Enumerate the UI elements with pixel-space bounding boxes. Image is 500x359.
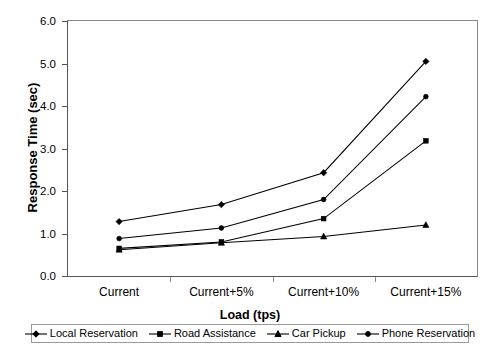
series-phone-reservation	[117, 94, 429, 241]
y-axis-tick-label: 6.0	[22, 16, 56, 26]
data-point-marker	[423, 222, 429, 228]
y-axis-tick-label: 1.0	[22, 229, 56, 239]
legend-item-road-assistance: Road Assistance	[149, 328, 256, 340]
legend-item-local-reservation: Local Reservation	[25, 328, 138, 340]
y-axis-tick-label: 3.0	[22, 144, 56, 154]
y-axis-tick-label: 2.0	[22, 186, 56, 196]
legend-item-car-pickup: Car Pickup	[267, 328, 346, 340]
series-line	[119, 141, 426, 249]
x-axis-tick-mark	[273, 277, 274, 282]
square-marker-icon	[149, 328, 171, 340]
x-axis-tick-mark	[375, 277, 376, 282]
plot-area	[67, 20, 478, 277]
legend-item-phone-reservation: Phone Reservation	[357, 328, 476, 340]
chart-figure: Response Time (sec) 6.05.04.03.02.01.00.…	[0, 0, 500, 359]
data-point-marker	[424, 139, 429, 144]
series-car-pickup	[116, 222, 429, 252]
data-point-marker	[116, 218, 122, 224]
chart-legend: Local ReservationRoad AssistanceCar Pick…	[31, 324, 469, 343]
x-axis-title: Load (tps)	[0, 308, 500, 322]
x-axis-tick-mark	[170, 277, 171, 282]
series-local-reservation	[116, 58, 429, 225]
y-axis-tick-label: 5.0	[22, 59, 56, 69]
y-axis-tick-label: 4.0	[22, 101, 56, 111]
y-axis-tick-labels: 6.05.04.03.02.01.00.0	[22, 0, 56, 359]
series-line	[119, 61, 426, 221]
series-lines-and-markers	[68, 21, 477, 276]
circle-marker-icon	[357, 328, 379, 340]
legend-label: Phone Reservation	[382, 328, 476, 339]
legend-label: Local Reservation	[50, 328, 138, 339]
legend-label: Road Assistance	[174, 328, 256, 339]
triangle-marker-icon	[267, 328, 289, 340]
legend-label: Car Pickup	[292, 328, 346, 339]
y-axis-tick-label: 0.0	[22, 271, 56, 281]
data-point-marker	[117, 236, 122, 241]
data-point-marker	[219, 226, 224, 231]
data-point-marker	[423, 94, 428, 99]
diamond-marker-icon	[25, 328, 47, 340]
data-point-marker	[321, 216, 326, 221]
data-point-marker	[218, 201, 224, 207]
x-axis-tick-label: Current+15%	[366, 285, 486, 299]
series-line	[119, 97, 426, 239]
data-point-marker	[321, 197, 326, 202]
